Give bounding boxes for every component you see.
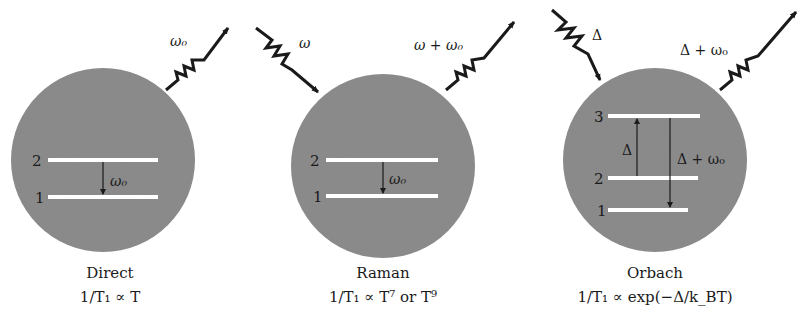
outgoing-phonon-wave-icon bbox=[720, 12, 796, 90]
transition-label: ω₀ bbox=[110, 173, 127, 189]
caption-raman: Raman 1/T₁ ∝ T⁷ or T⁹ bbox=[273, 264, 493, 306]
level-label-1: 1 bbox=[597, 202, 607, 220]
level-label-2: 2 bbox=[594, 170, 604, 188]
panel-raman: ω ω + ω₀ 2 1 ω₀ bbox=[256, 22, 514, 258]
transition-label-emit: Δ + ω₀ bbox=[677, 151, 725, 167]
caption-orbach: Orbach 1/T₁ ∝ exp(−Δ/k_BT) bbox=[545, 264, 765, 306]
level-label-2: 2 bbox=[310, 152, 320, 170]
outgoing-phonon-label: ω + ω₀ bbox=[414, 37, 463, 53]
rate-formula: 1/T₁ ∝ T⁷ or T⁹ bbox=[273, 288, 493, 306]
level-label-2: 2 bbox=[32, 152, 42, 170]
level-label-1: 1 bbox=[35, 189, 45, 207]
outgoing-phonon-label: Δ + ω₀ bbox=[680, 42, 728, 58]
caption-direct: Direct 1/T₁ ∝ T bbox=[0, 264, 220, 306]
panel-direct: ω₀ 2 1 ω₀ bbox=[11, 28, 228, 252]
outgoing-phonon-wave-icon bbox=[446, 22, 514, 90]
outgoing-phonon-label: ω₀ bbox=[170, 33, 187, 49]
panel-orbach: Δ Δ + ω₀ 3 2 1 Δ Δ + ω₀ bbox=[552, 10, 796, 252]
incoming-phonon-wave-icon bbox=[552, 10, 600, 80]
process-name: Orbach bbox=[545, 264, 765, 282]
rate-formula: 1/T₁ ∝ exp(−Δ/k_BT) bbox=[545, 288, 765, 306]
incoming-phonon-label: ω bbox=[299, 35, 311, 51]
level-label-3: 3 bbox=[594, 108, 604, 126]
level-label-1: 1 bbox=[313, 188, 323, 206]
process-name: Direct bbox=[0, 264, 220, 282]
transition-label-absorb: Δ bbox=[622, 142, 632, 158]
rate-formula: 1/T₁ ∝ T bbox=[0, 288, 220, 306]
process-name: Raman bbox=[273, 264, 493, 282]
transition-label: ω₀ bbox=[389, 171, 406, 187]
incoming-phonon-label: Δ bbox=[592, 27, 602, 43]
